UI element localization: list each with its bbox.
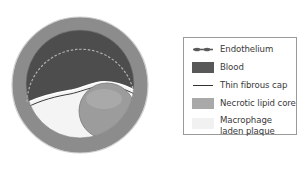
necrotic-core-swatch <box>192 98 214 109</box>
legend-item-plaque: Macrophage laden plaque <box>192 115 290 136</box>
plaque-swatch <box>192 118 214 129</box>
dashed-line-icon <box>192 44 214 55</box>
legend-label: Thin fibrous cap <box>220 80 287 91</box>
artery-cross-section-diagram <box>0 0 170 171</box>
legend-item-blood: Blood <box>192 62 244 73</box>
solid-line-icon <box>192 80 214 91</box>
legend-item-endothelium: Endothelium <box>192 44 273 55</box>
legend-label: Blood <box>220 62 244 73</box>
legend-item-necrotic-core: Necrotic lipid core <box>192 98 296 109</box>
legend-label: Macrophage laden plaque <box>220 115 290 136</box>
necrotic-core-highlight <box>86 89 122 109</box>
legend-item-fibrous-cap: Thin fibrous cap <box>192 80 287 91</box>
legend-label: Necrotic lipid core <box>220 98 296 109</box>
legend: Endothelium Blood Thin fibrous cap Necro… <box>183 37 297 135</box>
legend-label: Endothelium <box>220 44 273 55</box>
blood-swatch <box>192 62 214 73</box>
